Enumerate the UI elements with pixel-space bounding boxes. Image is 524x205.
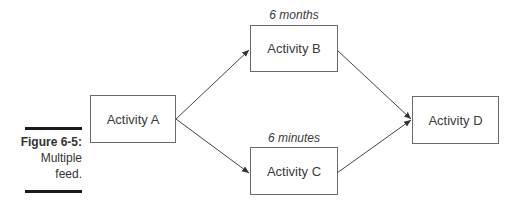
node-activity-c: Activity C: [250, 147, 338, 195]
node-activity-d: Activity D: [412, 96, 499, 144]
node-label: Activity B: [267, 41, 320, 56]
node-label: Activity C: [267, 164, 321, 179]
node-activity-a: Activity A: [90, 95, 176, 143]
node-activity-b: Activity B: [250, 25, 338, 72]
edge-a-to-c: [176, 119, 249, 173]
edge-a-to-b: [176, 50, 249, 119]
node-label: Activity D: [428, 113, 482, 128]
edge-b-to-d: [337, 50, 411, 119]
duration-label-c: 6 minutes: [250, 131, 338, 145]
duration-label-b: 6 months: [250, 8, 338, 22]
node-label: Activity A: [107, 112, 160, 127]
edge-c-to-d: [337, 120, 411, 173]
